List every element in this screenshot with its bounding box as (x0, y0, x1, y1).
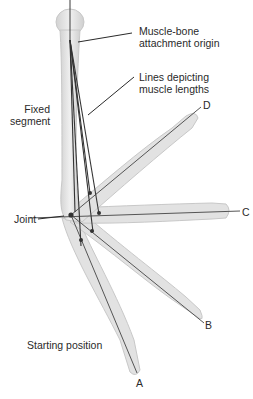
position-d-label: D (203, 99, 211, 111)
origin-label-line2: attachment origin (139, 37, 220, 49)
fixed-segment-label: Fixed segment (10, 103, 50, 127)
starting-position-label: Starting position (27, 339, 102, 351)
origin-label: Muscle-bone attachment origin (139, 25, 220, 49)
position-b-label: B (205, 319, 212, 331)
position-a-label: A (136, 377, 143, 389)
fixed-label-line2: segment (10, 115, 50, 127)
position-c-label: C (242, 206, 250, 218)
origin-label-line1: Muscle-bone (139, 25, 220, 37)
fixed-label-line1: Fixed (10, 103, 50, 115)
lines-label: Lines depicting muscle lengths (139, 71, 209, 95)
joint-label: Joint (14, 213, 36, 225)
lines-label-line2: muscle lengths (139, 83, 209, 95)
lines-label-line1: Lines depicting (139, 71, 209, 83)
leader-lines (38, 33, 134, 219)
